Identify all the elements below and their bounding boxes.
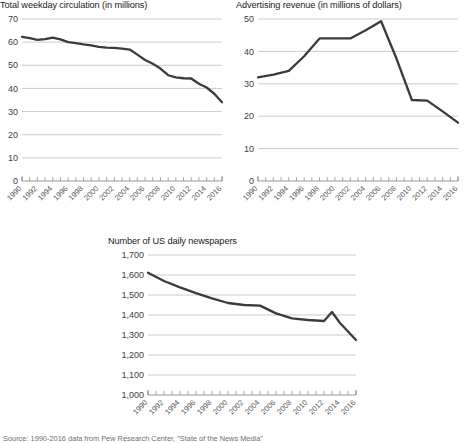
x-axis-tick-label: 2002 bbox=[227, 398, 245, 416]
y-axis-tick-label: 1,500 bbox=[121, 290, 144, 300]
x-axis-tick-label: 2012 bbox=[174, 184, 192, 202]
x-axis-tick-label: 2000 bbox=[318, 184, 336, 202]
chart-title-advertising-revenue: Advertising revenue (in millions of doll… bbox=[236, 0, 472, 11]
y-axis-tick-label: 1,100 bbox=[121, 370, 144, 380]
chart-title-daily-newspapers: Number of US daily newspapers bbox=[108, 236, 368, 247]
y-axis-tick-label: 20 bbox=[244, 111, 254, 121]
chart-daily-newspapers: Number of US daily newspapers 1,0001,100… bbox=[108, 236, 368, 437]
chart-advertising-revenue: Advertising revenue (in millions of doll… bbox=[236, 0, 472, 216]
x-axis-tick-label: 1998 bbox=[195, 398, 213, 416]
x-axis-tick-label: 2004 bbox=[243, 398, 261, 416]
data-series-line bbox=[258, 21, 458, 122]
y-axis-tick-label: 1,200 bbox=[121, 350, 144, 360]
y-axis-tick-label: 50 bbox=[8, 60, 18, 70]
x-axis-tick-label: 2008 bbox=[144, 184, 162, 202]
x-axis-tick-label: 1996 bbox=[287, 184, 305, 202]
x-axis-tick-label: 1992 bbox=[256, 184, 274, 202]
source-caption: Source: 1990-2016 data from Pew Research… bbox=[3, 434, 263, 443]
y-axis-tick-label: 10 bbox=[244, 144, 254, 154]
x-axis-tick-label: 2012 bbox=[410, 184, 428, 202]
y-axis-tick-label: 1,000 bbox=[121, 390, 144, 400]
x-axis-tick-label: 2014 bbox=[426, 184, 444, 202]
x-axis-tick-label: 2014 bbox=[190, 184, 208, 202]
y-axis-tick-label: 70 bbox=[8, 14, 18, 24]
x-axis-tick-label: 1990 bbox=[241, 184, 259, 202]
x-axis-tick-label: 2016 bbox=[339, 398, 357, 416]
x-axis-tick-label: 1994 bbox=[36, 184, 54, 202]
x-axis-tick-label: 2014 bbox=[323, 398, 341, 416]
y-axis-tick-label: 30 bbox=[8, 107, 18, 117]
x-axis-tick-label: 2000 bbox=[82, 184, 100, 202]
x-axis-tick-label: 1992 bbox=[20, 184, 38, 202]
y-axis-tick-label: 30 bbox=[244, 79, 254, 89]
x-axis-tick-label: 2002 bbox=[333, 184, 351, 202]
x-axis-tick-label: 2006 bbox=[128, 184, 146, 202]
chart-weekday-circulation: Total weekday circulation (in millions) … bbox=[0, 0, 236, 216]
chart-title-weekday-circulation: Total weekday circulation (in millions) bbox=[0, 0, 236, 11]
x-axis-tick-label: 2016 bbox=[205, 184, 223, 202]
x-axis-tick-label: 1998 bbox=[303, 184, 321, 202]
x-axis-tick-label: 2000 bbox=[211, 398, 229, 416]
x-axis-tick-label: 1992 bbox=[147, 398, 165, 416]
x-axis-tick-label: 2016 bbox=[441, 184, 459, 202]
chart-plot-daily-newspapers: 1,0001,1001,2001,3001,4001,5001,6001,700… bbox=[108, 247, 368, 437]
x-axis-tick-label: 2010 bbox=[159, 184, 177, 202]
x-axis-tick-label: 2004 bbox=[113, 184, 131, 202]
y-axis-tick-label: 1,400 bbox=[121, 310, 144, 320]
x-axis-tick-label: 2008 bbox=[380, 184, 398, 202]
x-axis-tick-label: 1990 bbox=[5, 184, 23, 202]
y-axis-tick-label: 10 bbox=[8, 153, 18, 163]
x-axis-tick-label: 2008 bbox=[275, 398, 293, 416]
x-axis-tick-label: 1994 bbox=[272, 184, 290, 202]
x-axis-tick-label: 2006 bbox=[259, 398, 277, 416]
chart-plot-weekday-circulation: 0102030405060701990199219941996199820002… bbox=[0, 11, 236, 216]
y-axis-tick-label: 1,700 bbox=[121, 250, 144, 260]
x-axis-tick-label: 2006 bbox=[364, 184, 382, 202]
x-axis-tick-label: 1996 bbox=[179, 398, 197, 416]
data-series-line bbox=[22, 37, 222, 102]
x-axis-tick-label: 1994 bbox=[163, 398, 181, 416]
x-axis-tick-label: 1998 bbox=[67, 184, 85, 202]
y-axis-tick-label: 1,600 bbox=[121, 270, 144, 280]
chart-plot-advertising-revenue: 0102030405019901992199419961998200020022… bbox=[236, 11, 472, 216]
y-axis-tick-label: 20 bbox=[8, 130, 18, 140]
data-series-line bbox=[148, 273, 356, 340]
x-axis-tick-label: 2010 bbox=[291, 398, 309, 416]
x-axis-tick-label: 2004 bbox=[349, 184, 367, 202]
x-axis-tick-label: 2002 bbox=[97, 184, 115, 202]
y-axis-tick-label: 40 bbox=[8, 84, 18, 94]
y-axis-tick-label: 40 bbox=[244, 47, 254, 57]
x-axis-tick-label: 2012 bbox=[307, 398, 325, 416]
x-axis-tick-label: 1996 bbox=[51, 184, 69, 202]
x-axis-tick-label: 2010 bbox=[395, 184, 413, 202]
y-axis-tick-label: 1,300 bbox=[121, 330, 144, 340]
y-axis-tick-label: 50 bbox=[244, 14, 254, 24]
y-axis-tick-label: 60 bbox=[8, 37, 18, 47]
x-axis-tick-label: 1990 bbox=[131, 398, 149, 416]
